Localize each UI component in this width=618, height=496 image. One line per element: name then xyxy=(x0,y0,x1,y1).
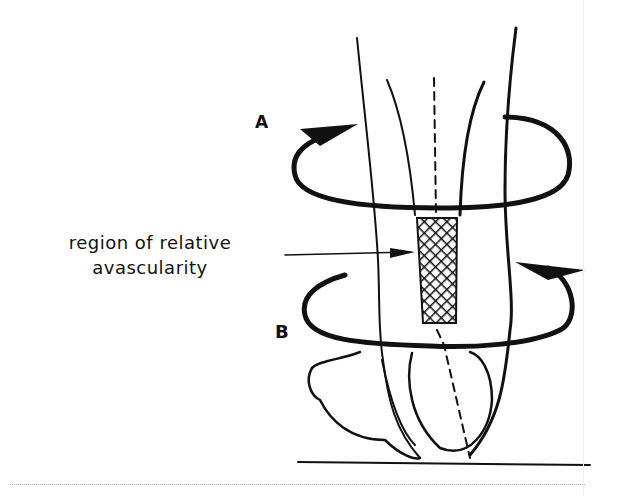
rotation-a-label: A xyxy=(255,112,268,132)
anatomical-diagram: region of relative avascularity A B xyxy=(0,0,618,496)
label-line-2: avascularity xyxy=(45,255,255,280)
region-of-relative-avascularity-label: region of relative avascularity xyxy=(45,230,255,280)
page-edge-divider xyxy=(583,0,584,496)
rotation-b-label: B xyxy=(275,321,289,342)
label-line-1: region of relative xyxy=(45,230,255,255)
dotted-separator xyxy=(10,484,585,485)
